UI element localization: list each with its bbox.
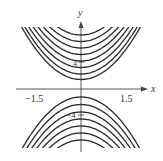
x-axis-arrow-icon [141, 87, 148, 92]
x-axis-label: x [150, 83, 156, 94]
y-tick-label-pos: 4 [73, 59, 77, 68]
y-axis-arrow-icon [79, 21, 84, 28]
level-curve [0, 140, 163, 160]
x-tick-label-pos: 1.5 [120, 93, 133, 104]
lower-level-curves [0, 97, 163, 160]
y-axis-label: y [77, 7, 83, 18]
level-curve [0, 97, 163, 160]
level-curve [0, 126, 163, 160]
level-curve [0, 105, 163, 161]
y-tick-label-neg: −4 [67, 111, 76, 120]
contour-plot: y x −1.5 1.5 4 −4 [0, 0, 163, 160]
x-tick-label-neg: −1.5 [25, 93, 43, 104]
